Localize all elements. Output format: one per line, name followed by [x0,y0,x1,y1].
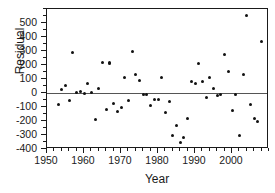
data-point [138,79,141,82]
data-point [97,87,100,90]
data-point [86,82,89,85]
x-axis-tick-minor [76,148,77,151]
data-point [127,99,130,102]
data-point [245,14,248,17]
y-axis-tick-label: 500 [19,16,37,28]
x-axis-tick-minor [187,148,188,151]
data-point [179,141,182,144]
x-axis-tick-minor [179,148,180,151]
y-axis-tick-label: 300 [19,44,37,56]
data-point [249,103,252,106]
x-axis-tick-minor [127,148,128,151]
x-axis-tick-label: 1960 [71,154,94,166]
x-axis-tick-major [120,148,121,153]
data-point [182,136,185,139]
data-point [101,61,104,64]
data-point [112,102,115,105]
y-axis-tick-label: 400 [19,30,37,42]
plot-area [46,8,268,148]
data-point [197,62,200,65]
y-axis: -400-300-200-1000100200300400500 [0,8,46,148]
x-axis-tick-major [46,148,47,153]
x-axis: 195019601970198019902000 [46,148,268,172]
data-point [149,104,152,107]
residual-scatter-chart: Residual -400-300-200-100010020030040050… [0,0,275,193]
x-axis-tick-major [157,148,158,153]
data-point [94,118,97,121]
data-point [216,94,219,97]
x-axis-tick-minor [201,148,202,151]
data-point [64,84,67,87]
data-point [186,117,189,120]
x-axis-tick-minor [90,148,91,151]
data-point [171,134,174,137]
data-point [212,87,215,90]
x-axis-tick-label: 2000 [219,154,242,166]
y-axis-tick-label: -200 [16,114,37,126]
x-axis-tick-label: 1990 [182,154,205,166]
x-axis-title: Year [46,172,268,186]
x-axis-tick-minor [61,148,62,151]
data-point [116,110,119,113]
data-point [83,92,86,95]
data-point [164,111,167,114]
y-axis-tick-label: 200 [19,58,37,70]
x-axis-tick-minor [105,148,106,151]
x-axis-tick-major [83,148,84,153]
y-axis-tick-label: 0 [31,86,37,98]
y-axis-tick-label: 100 [19,72,37,84]
data-point [90,91,93,94]
data-point [242,73,245,76]
data-point [108,62,111,65]
data-point [175,124,178,127]
data-point [231,109,234,112]
x-axis-tick-minor [268,148,269,151]
x-axis-tick-minor [238,148,239,151]
data-point [71,51,74,54]
data-point [75,91,78,94]
data-point [208,76,211,79]
data-point [234,93,237,96]
data-point [223,53,226,56]
data-point [253,117,256,120]
x-axis-tick-minor [172,148,173,151]
data-point [256,120,259,123]
data-point [201,80,204,83]
data-point [168,100,171,103]
y-axis-tick-label: -300 [16,128,37,140]
x-axis-tick-minor [224,148,225,151]
data-point [142,93,145,96]
data-point [105,108,108,111]
x-axis-tick-label: 1950 [34,154,57,166]
x-axis-tick-major [194,148,195,153]
data-point [123,76,126,79]
data-point [60,88,63,91]
data-point [194,82,197,85]
data-point [160,76,163,79]
data-point [157,98,160,101]
y-axis-tick-label: -400 [16,142,37,154]
x-axis-tick-label: 1970 [108,154,131,166]
x-axis-tick-major [231,148,232,153]
data-point [219,93,222,96]
data-point [205,96,208,99]
x-axis-tick-minor [150,148,151,151]
data-point [260,40,263,43]
x-axis-tick-minor [68,148,69,151]
data-point [120,106,123,109]
x-axis-tick-minor [261,148,262,151]
x-axis-tick-minor [113,148,114,151]
x-axis-tick-minor [135,148,136,151]
data-point [145,93,148,96]
y-axis-tick-label: -100 [16,100,37,112]
data-point [79,90,82,93]
x-axis-tick-minor [253,148,254,151]
data-point [134,73,137,76]
x-axis-tick-minor [53,148,54,151]
data-point [57,103,60,106]
data-point [68,99,71,102]
x-axis-tick-minor [209,148,210,151]
x-axis-tick-minor [216,148,217,151]
x-axis-tick-minor [142,148,143,151]
data-point [153,98,156,101]
